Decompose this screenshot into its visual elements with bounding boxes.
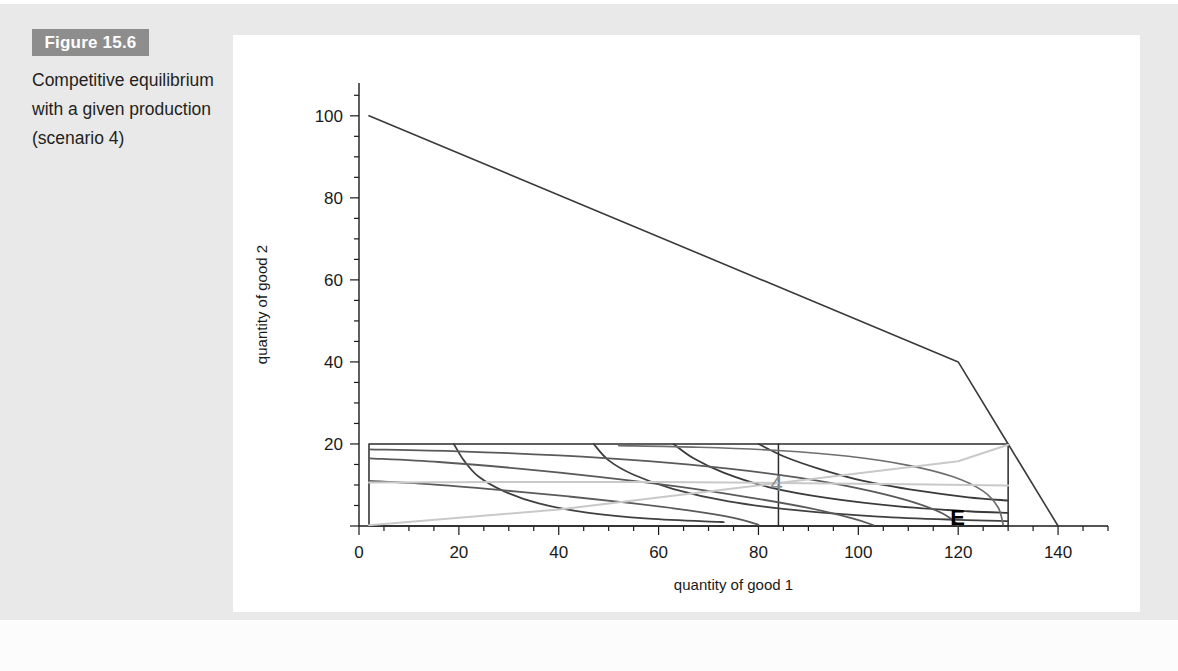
x-tick-label: 140 xyxy=(1044,543,1072,562)
y-tick-label: 60 xyxy=(324,271,343,290)
y-tick-label: 40 xyxy=(324,353,343,372)
x-tick-label: 120 xyxy=(944,543,972,562)
page-background: Figure 15.6 Competitive equilibrium with… xyxy=(0,0,1178,671)
x-axis-title: quantity of good 1 xyxy=(674,576,793,593)
series-consumer2-indifference-curve-a xyxy=(369,481,758,525)
figure-number-badge: Figure 15.6 xyxy=(32,29,149,56)
x-tick-label: 100 xyxy=(844,543,872,562)
annotation-label-4: 4 xyxy=(770,471,782,496)
series-layer xyxy=(369,116,1058,526)
edgeworth-box-chart: 02040608010012014020406080100quantity of… xyxy=(233,35,1140,612)
x-tick-label: 0 xyxy=(354,543,363,562)
figure-caption-text: Competitive equilibrium with a given pro… xyxy=(32,66,222,153)
x-tick-label: 80 xyxy=(749,543,768,562)
x-tick-label: 20 xyxy=(449,543,468,562)
annotation-label-e: E xyxy=(950,505,965,530)
y-tick-label: 80 xyxy=(324,189,343,208)
figure-caption-column: Figure 15.6 Competitive equilibrium with… xyxy=(18,14,228,619)
y-tick-label: 100 xyxy=(315,107,343,126)
x-tick-label: 40 xyxy=(549,543,568,562)
x-tick-label: 60 xyxy=(649,543,668,562)
chart-panel: 02040608010012014020406080100quantity of… xyxy=(233,35,1140,612)
figure-block: Figure 15.6 Competitive equilibrium with… xyxy=(18,14,1158,619)
y-tick-label: 20 xyxy=(324,435,343,454)
y-axis-title: quantity of good 2 xyxy=(253,245,270,364)
series-price-line-light xyxy=(369,482,1008,485)
axes-layer xyxy=(350,83,1108,535)
